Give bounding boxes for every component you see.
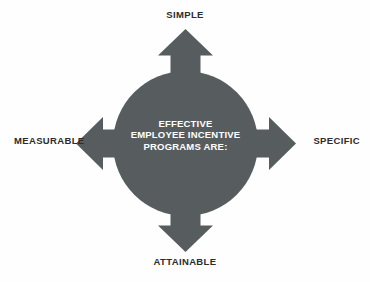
label-specific: SPECIFIC bbox=[313, 135, 360, 146]
diagram-canvas: EFFECTIVE EMPLOYEE INCENTIVE PROGRAMS AR… bbox=[0, 0, 370, 282]
label-measurable: MEASURABLE bbox=[14, 135, 85, 146]
center-statement-line-3: PROGRAMS ARE: bbox=[113, 141, 258, 152]
label-simple: SIMPLE bbox=[0, 9, 370, 20]
center-statement-line-2: EMPLOYEE INCENTIVE bbox=[113, 129, 258, 140]
center-statement-line-1: EFFECTIVE bbox=[113, 118, 258, 129]
label-attainable: ATTAINABLE bbox=[0, 256, 370, 267]
center-statement: EFFECTIVE EMPLOYEE INCENTIVE PROGRAMS AR… bbox=[113, 118, 258, 152]
